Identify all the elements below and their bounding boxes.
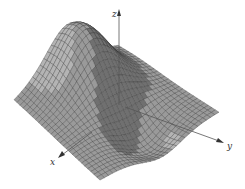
- surface-mesh: [14, 22, 219, 180]
- y-axis-arrow-icon: [216, 138, 224, 143]
- surface-plot: z y x: [0, 0, 245, 189]
- z-axis-arrow-icon: [117, 9, 121, 16]
- x-axis-label: x: [50, 157, 55, 167]
- x-axis-arrow-icon: [58, 151, 65, 158]
- y-axis-label: y: [226, 141, 233, 151]
- z-axis-label: z: [111, 9, 117, 19]
